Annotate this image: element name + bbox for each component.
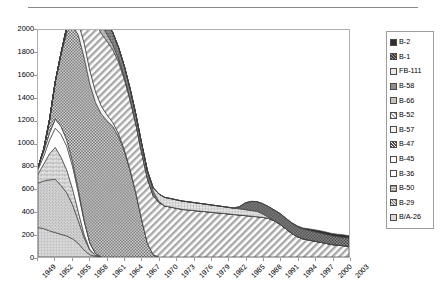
x-axis-tick-mark	[315, 258, 316, 261]
legend-item-label: B-2	[399, 38, 410, 46]
legend-item-b-45[interactable]: B-45	[390, 152, 431, 167]
plot-wrapper: 2000180016001400120010008006004002000 19…	[0, 0, 360, 294]
legend-item-b-47[interactable]: B-47	[390, 137, 431, 152]
x-axis-tick-mark	[159, 258, 160, 261]
x-axis-tick-label: 1958	[93, 263, 110, 280]
legend-item-b-a-26[interactable]: B/A-26	[390, 210, 431, 225]
x-axis-tick-mark	[107, 258, 108, 261]
legend-swatch-solid-white	[390, 170, 397, 177]
legend-item-label: B-52	[399, 111, 414, 119]
x-axis-tick-mark	[211, 258, 212, 261]
x-axis-tick-label: 1949	[41, 263, 58, 280]
x-axis-tick-mark	[72, 258, 73, 261]
legend-swatch-solid-dark	[390, 39, 397, 46]
legend-item-label: B/A-26	[399, 213, 421, 221]
legend-item-label: B-50	[399, 184, 414, 192]
legend-item-b-57[interactable]: B-57	[390, 123, 431, 138]
x-axis-tick-label: 1994	[302, 263, 319, 280]
x-axis-tick-mark	[263, 258, 264, 261]
x-axis-tick-label: 1970	[162, 263, 179, 280]
legend-swatch-grid-light	[390, 214, 397, 221]
x-axis-tick-label: 1967	[145, 263, 162, 280]
legend-item-b-29[interactable]: B-29	[390, 196, 431, 211]
x-axis-tick-label: 1964	[128, 263, 145, 280]
x-axis-tick-mark	[176, 258, 177, 261]
x-axis-tick-label: 2000	[336, 263, 353, 280]
x-axis-tick-mark	[228, 258, 229, 261]
x-axis-tick-label: 1988	[267, 263, 284, 280]
x-axis-tick-label: 1952	[58, 263, 75, 280]
legend-swatch-dots-fine	[390, 199, 397, 206]
stacked-area-svg	[38, 30, 349, 257]
x-axis-tick-label: 1979	[215, 263, 232, 280]
legend-swatch-solid-white2	[390, 156, 397, 163]
legend-swatch-diagonal	[390, 112, 397, 119]
legend-swatch-grid-mid	[390, 97, 397, 104]
legend-item-label: B-66	[399, 97, 414, 105]
legend-item-label: B-58	[399, 82, 414, 90]
x-axis-tick-mark	[124, 258, 125, 261]
legend-item-b-50[interactable]: B-50	[390, 181, 431, 196]
x-axis-tick-mark	[89, 258, 90, 261]
x-axis-tick-label: 1973	[180, 263, 197, 280]
plot-area	[37, 29, 350, 258]
legend-swatch-brick	[390, 185, 397, 192]
x-axis-tick-mark	[350, 258, 351, 261]
legend-item-label: B-47	[399, 140, 414, 148]
x-axis-tick-mark	[141, 258, 142, 261]
x-axis-tick-mark	[333, 258, 334, 261]
legend-item-b-52[interactable]: B-52	[390, 108, 431, 123]
x-axis-tick-mark	[194, 258, 195, 261]
legend-item-b-2[interactable]: B-2	[390, 35, 431, 50]
legend-item-b-66[interactable]: B-66	[390, 93, 431, 108]
x-axis-tick-mark	[246, 258, 247, 261]
legend-item-fb-111[interactable]: FB-111	[390, 64, 431, 79]
legend-swatch-solid-light	[390, 126, 397, 133]
legend-item-label: B-45	[399, 155, 414, 163]
x-axis-tick-label: 1955	[75, 263, 92, 280]
legend-item-label: B-1	[399, 53, 410, 61]
legend-swatch-grid-dark	[390, 83, 397, 90]
x-axis-tick-mark	[54, 258, 55, 261]
legend-swatch-grid-soft	[390, 68, 397, 75]
chart-page: 2000180016001400120010008006004002000 19…	[0, 0, 440, 294]
x-axis-tick-mark	[280, 258, 281, 261]
chart-legend: B-2B-1FB-111B-58B-66B-52B-57B-47B-45B-36…	[386, 31, 434, 229]
legend-item-label: FB-111	[399, 67, 422, 75]
x-axis-tick-label: 1991	[284, 263, 301, 280]
x-axis-tick-label: 1985	[249, 263, 266, 280]
legend-swatch-checker	[390, 141, 397, 148]
legend-item-b-1[interactable]: B-1	[390, 50, 431, 65]
legend-item-label: B-57	[399, 126, 414, 134]
x-axis-tick-mark	[298, 258, 299, 261]
legend-swatch-dots-dark	[390, 53, 397, 60]
legend-item-b-36[interactable]: B-36	[390, 166, 431, 181]
legend-item-label: B-36	[399, 170, 414, 178]
x-axis-tick-label: 2003	[354, 263, 371, 280]
x-axis-tick-label: 1976	[197, 263, 214, 280]
x-axis-tick-label: 1961	[110, 263, 127, 280]
x-axis-tick-mark	[37, 258, 38, 261]
x-axis-tick-label: 1997	[319, 263, 336, 280]
legend-item-label: B-29	[399, 199, 414, 207]
legend-item-b-58[interactable]: B-58	[390, 79, 431, 94]
x-axis-tick-label: 1982	[232, 263, 249, 280]
